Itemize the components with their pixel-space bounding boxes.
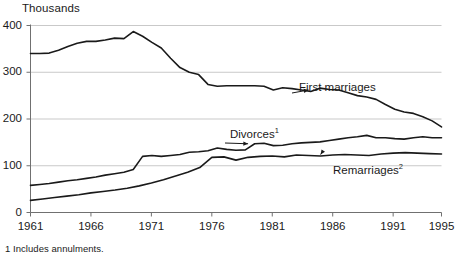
x-tick-label: 1971 xyxy=(128,220,174,232)
series-label-remarriages: Remarriages2 xyxy=(333,162,403,176)
gridlines xyxy=(31,26,442,166)
x-tick-label: 1966 xyxy=(68,220,114,232)
annotation-arrows xyxy=(225,89,325,155)
chart-footnote: 1 Includes annulments. xyxy=(5,243,104,254)
series-label-first-marriages: First marriages xyxy=(299,81,376,93)
chart-figure: Thousands 0100200300400 1961196619711976… xyxy=(0,0,464,260)
x-tick-label: 1991 xyxy=(370,220,416,232)
x-axis-ticks xyxy=(31,213,442,217)
x-tick-label: 1981 xyxy=(249,220,295,232)
y-tick-label: 200 xyxy=(0,112,22,124)
footnote-marker: 2 xyxy=(399,162,403,171)
y-tick-label: 100 xyxy=(0,159,22,171)
x-tick-label: 1976 xyxy=(189,220,235,232)
series-label-text: Remarriages xyxy=(333,164,399,176)
x-tick-label: 1986 xyxy=(310,220,356,232)
series-label-text: Divorces xyxy=(230,128,275,140)
series-label-text: First marriages xyxy=(299,81,376,93)
footnote-marker: 1 xyxy=(275,126,279,135)
x-tick-label: 1961 xyxy=(8,220,54,232)
x-tick-label: 1995 xyxy=(419,220,464,232)
series-label-divorces: Divorces1 xyxy=(230,126,279,140)
y-tick-label: 0 xyxy=(0,206,22,218)
y-tick-label: 300 xyxy=(0,65,22,77)
y-tick-label: 400 xyxy=(0,19,22,31)
